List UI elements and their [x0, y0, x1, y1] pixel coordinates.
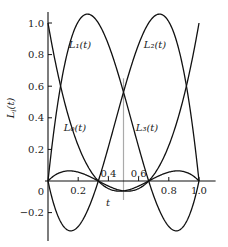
y-axis-label: Li(t) [5, 98, 18, 120]
curve-labels: L₀(t)L₁(t)L₂(t)L₃(t) [63, 39, 167, 133]
x-axis-label: t [106, 197, 111, 208]
curve-label-3: L₃(t) [135, 122, 159, 133]
x-tick-label: 0.6 [131, 168, 147, 179]
curve-label-2: L₂(t) [143, 39, 167, 50]
y-tick-label: 0.8 [28, 49, 44, 60]
y-tick-label: 1.0 [28, 18, 44, 29]
svg-text:Li(t): Li(t) [5, 98, 18, 120]
origin-label: 0 [38, 186, 44, 197]
y-axis-label-tail: (t) [5, 98, 16, 110]
y-tick-label: 0.6 [28, 81, 44, 92]
x-tick-label: 0.8 [161, 185, 177, 196]
curve-label-0: L₀(t) [63, 122, 87, 133]
lagrange-basis-chart: 0.20.40.60.81.0−0.20.20.40.60.81.0 L₀(t)… [0, 0, 228, 247]
y-tick-label: 0.4 [28, 112, 44, 123]
x-tick-label: 0.4 [100, 168, 116, 179]
x-tick-label: 1.0 [191, 185, 207, 196]
y-tick-label: −0.2 [20, 207, 44, 218]
y-tick-label: 0.2 [28, 144, 44, 155]
curve-label-1: L₁(t) [68, 39, 92, 50]
x-tick-label: 0.2 [70, 185, 86, 196]
